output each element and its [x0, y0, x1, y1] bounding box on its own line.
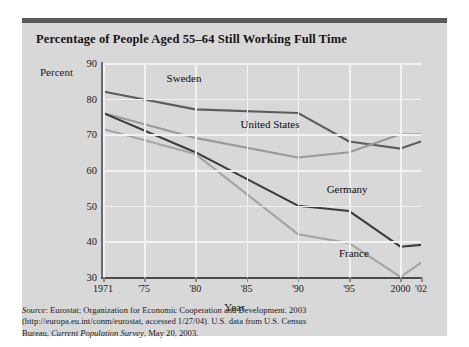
gridline-horizontal	[103, 134, 421, 136]
source-text-3c: , May 20, 2003.	[144, 328, 198, 338]
x-tick-label: 2000	[390, 283, 410, 294]
x-axis-line	[101, 277, 421, 279]
gridline-vertical	[103, 63, 105, 277]
source-text-1: : Eurostat; Organization for Economic Co…	[46, 305, 307, 315]
gridline-horizontal	[103, 99, 421, 101]
gridline-horizontal	[103, 170, 421, 172]
x-tick-label: 1971	[93, 283, 113, 294]
source-line-1: Source: Eurostat; Organization for Econo…	[22, 305, 306, 315]
y-tick-label: 70	[71, 129, 97, 140]
gridline-vertical	[349, 63, 351, 277]
source-text-2: (http://europa.eu.int/conm/eurostat, acc…	[22, 316, 306, 326]
series-label-france: France	[339, 247, 369, 259]
x-tick-label: '95	[343, 283, 355, 294]
x-tick-mark	[103, 277, 105, 282]
x-tick-mark	[195, 277, 197, 282]
series-label-united-states: United States	[240, 118, 299, 130]
y-tick-label: 80	[71, 93, 97, 104]
figure-panel: Percentage of People Aged 55–64 Still Wo…	[22, 18, 447, 336]
y-tick-label: 90	[71, 58, 97, 69]
y-axis-line	[101, 62, 103, 278]
source-label: Source	[22, 305, 46, 315]
x-tick-mark	[421, 277, 423, 282]
source-text-3a: Bureau,	[22, 328, 51, 338]
y-tick-label: 40	[71, 236, 97, 247]
x-tick-label: '02	[415, 283, 427, 294]
y-tick-label: 50	[71, 200, 97, 211]
y-tick-label: 30	[71, 272, 97, 283]
y-axis-ticks: 90807060504030	[67, 63, 97, 277]
x-tick-mark	[298, 277, 300, 282]
x-tick-label: '85	[241, 283, 253, 294]
y-tick-label: 60	[71, 165, 97, 176]
x-tick-mark	[247, 277, 249, 282]
gridline-vertical	[195, 63, 197, 277]
gridline-vertical	[247, 63, 249, 277]
gridline-vertical	[298, 63, 300, 277]
x-tick-label: '75	[138, 283, 150, 294]
series-label-germany: Germany	[327, 183, 368, 195]
gridline-horizontal	[103, 206, 421, 208]
series-label-sweden: Sweden	[167, 72, 202, 84]
gridline-vertical	[400, 63, 402, 277]
plot-wrapper: SwedenUnited StatesGermanyFrance 9080706…	[22, 18, 447, 336]
gridline-vertical	[144, 63, 146, 277]
series-line-germany	[103, 113, 421, 247]
x-tick-mark	[144, 277, 146, 282]
gridline-horizontal	[103, 241, 421, 243]
plot-area: SwedenUnited StatesGermanyFrance	[103, 63, 421, 277]
gridline-horizontal	[103, 63, 421, 65]
x-tick-label: '80	[189, 283, 201, 294]
x-axis-ticks: 1971'75'80'85'90'952000'02	[103, 283, 421, 299]
x-tick-mark	[400, 277, 402, 282]
source-note: Source: Eurostat; Organization for Econo…	[22, 305, 452, 339]
x-tick-label: '90	[292, 283, 304, 294]
source-publication: Current Population Survey	[51, 328, 144, 338]
x-tick-mark	[349, 277, 351, 282]
